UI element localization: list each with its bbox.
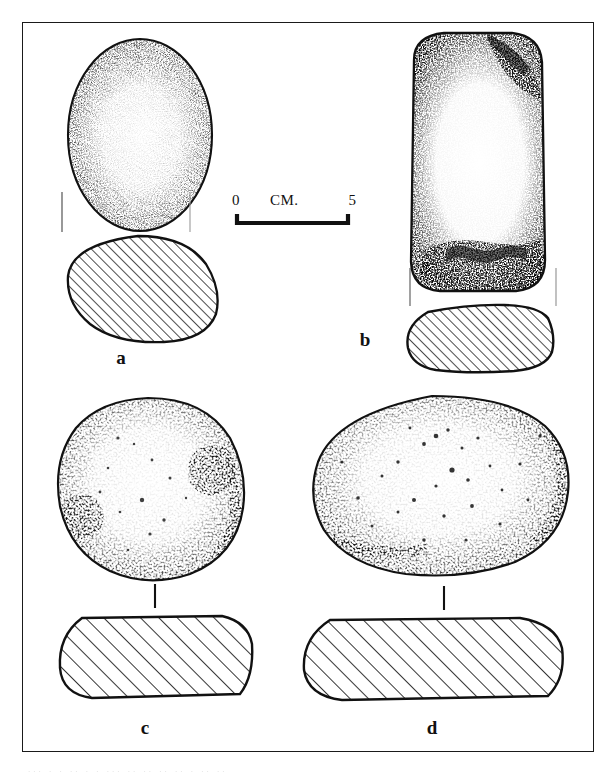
artifact-label-d: d bbox=[419, 718, 445, 737]
artifact-b-plan-view bbox=[405, 28, 555, 298]
artifact-a-cross-section bbox=[68, 236, 218, 342]
scale-bar-unit-label: CM. bbox=[270, 192, 299, 209]
artifact-label-a: a bbox=[108, 348, 134, 367]
artifact-c-cross-section bbox=[60, 616, 252, 698]
artifact-c-plan-view bbox=[48, 392, 252, 592]
artifact-a-group bbox=[60, 32, 223, 342]
scan-noise-strip: ... . . .. . . ... .. .. .. .. . .. .. bbox=[28, 764, 588, 774]
scale-bar-left-value: 0 bbox=[232, 192, 240, 209]
artifact-label-b: b bbox=[352, 330, 378, 349]
artifact-b-group bbox=[405, 28, 556, 372]
artifact-b-cross-section bbox=[407, 305, 553, 372]
artifact-c-group bbox=[48, 392, 252, 698]
artifact-label-c: c bbox=[132, 718, 158, 737]
artifact-d-plan-view bbox=[300, 390, 580, 586]
artifact-illustrations bbox=[0, 0, 615, 778]
artifact-d-group bbox=[300, 390, 580, 700]
scale-bar-right-value: 5 bbox=[349, 192, 357, 209]
artifact-a-plan-view bbox=[60, 32, 223, 242]
figure-plate: 0 CM. 5 a b c d ... . . .. . . ... .. ..… bbox=[0, 0, 615, 778]
scale-bar-numerals: 0 CM. 5 bbox=[232, 192, 356, 212]
metric-scale-bar: 0 CM. 5 bbox=[232, 192, 356, 236]
artifact-d-cross-section bbox=[304, 618, 563, 700]
scale-bar-rule bbox=[234, 214, 351, 228]
